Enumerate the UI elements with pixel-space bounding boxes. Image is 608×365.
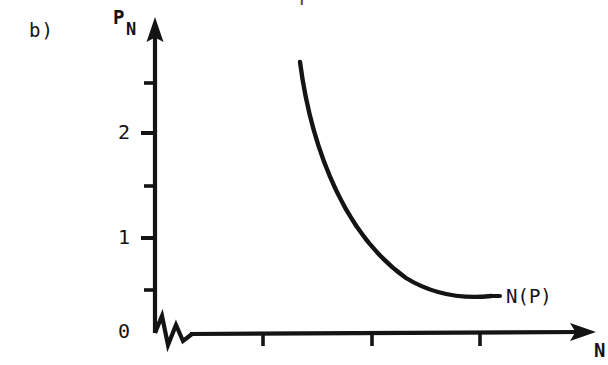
y-axis-label: PN (113, 8, 124, 27)
panel-label-b: b) (29, 21, 54, 40)
plot-canvas (0, 0, 608, 365)
y-axis-label-subscript: N (126, 21, 136, 38)
y-axis-label-main: P (113, 6, 124, 28)
curve-label-n-of-p: N(P) (506, 287, 552, 306)
x-axis-group (155, 316, 596, 346)
y-axis-group (141, 17, 164, 333)
x-axis-break-zigzag-icon (155, 316, 192, 345)
x-axis-line (190, 332, 580, 334)
clipped-label-above: P (299, 0, 310, 8)
figure-panel-b: P b) PN 2 1 0 N(P) N (0, 0, 608, 365)
y-axis-tick-label-1: 1 (108, 227, 130, 247)
y-axis-tick-label-2: 2 (108, 122, 130, 142)
curve-n-of-p (300, 62, 491, 297)
x-axis-label: N (594, 341, 605, 360)
y-axis-tick-label-0: 0 (108, 321, 130, 341)
